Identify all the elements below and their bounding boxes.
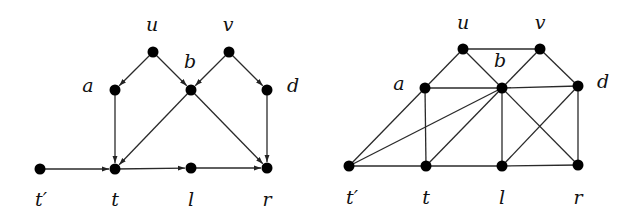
figure-canvas: uvabdt′tlr uvabdt′tlr (0, 0, 643, 218)
left_graph-node-l (186, 163, 197, 174)
right_graph-node-r (573, 160, 584, 171)
left_graph-edge-t-l (115, 168, 185, 169)
left_graph-edge-b-r (191, 90, 263, 164)
right_graph-label-v: v (535, 11, 546, 33)
right_graph-label-r: r (573, 186, 584, 208)
left_graph-edge-b-t (119, 90, 191, 165)
right_graph-edge-v-d (540, 49, 578, 86)
left_graph-node-b (186, 85, 197, 96)
right_graph-label-u: u (457, 11, 469, 33)
left_graph-node-t (110, 164, 121, 175)
left_graph-label-u: u (146, 13, 158, 35)
left-graph-labels: uvabdt′tlr (35, 13, 299, 210)
left_graph-node-r (262, 163, 273, 174)
left_graph-label-v: v (223, 13, 234, 35)
right_graph-node-d (573, 81, 584, 92)
left_graph-label-d: d (287, 74, 299, 96)
right_graph-label-tp: t′ (346, 186, 359, 208)
left_graph-edge-v-b (195, 52, 229, 86)
right_graph-node-l (497, 161, 508, 172)
right_graph-edge-a-tp (349, 88, 425, 166)
right_graph-node-b (497, 83, 508, 94)
left_graph-edge-u-a (119, 52, 153, 86)
right-graph-edges (349, 49, 578, 166)
right_graph-node-tp (344, 161, 355, 172)
left_graph-node-v (224, 47, 235, 58)
right_graph-node-u (458, 44, 469, 55)
right_graph-edge-b-d (502, 86, 578, 88)
right_graph-label-a: a (393, 72, 404, 94)
left_graph-node-d (262, 85, 273, 96)
right_graph-label-b: b (494, 49, 506, 71)
right-undirected-graph: uvabdt′tlr (344, 11, 610, 208)
left_graph-label-a: a (82, 74, 93, 96)
right_graph-edge-b-t (426, 88, 502, 166)
right-graph-labels: uvabdt′tlr (346, 11, 609, 208)
right_graph-label-l: l (499, 186, 505, 208)
left-graph-edges (40, 52, 267, 169)
left_graph-node-u (148, 47, 159, 58)
left_graph-edge-u-b (153, 52, 187, 86)
right_graph-node-a (420, 83, 431, 94)
left_graph-label-b: b (184, 50, 196, 72)
right_graph-label-d: d (597, 70, 609, 92)
right_graph-label-t: t (422, 186, 430, 208)
right_graph-node-v (535, 44, 546, 55)
right_graph-edge-v-b (502, 49, 540, 88)
left_graph-edge-v-d (229, 52, 263, 86)
right_graph-node-t (421, 161, 432, 172)
left-directed-graph: uvabdt′tlr (35, 13, 300, 210)
left_graph-label-r: r (262, 188, 273, 210)
right_graph-edge-l-r (502, 165, 578, 166)
left_graph-label-t: t (111, 188, 119, 210)
right_graph-edge-u-a (425, 49, 463, 88)
left_graph-node-tp (35, 164, 46, 175)
left-graph-nodes (35, 47, 273, 175)
left_graph-label-l: l (188, 188, 194, 210)
left_graph-label-tp: t′ (35, 188, 48, 210)
left_graph-node-a (110, 85, 121, 96)
